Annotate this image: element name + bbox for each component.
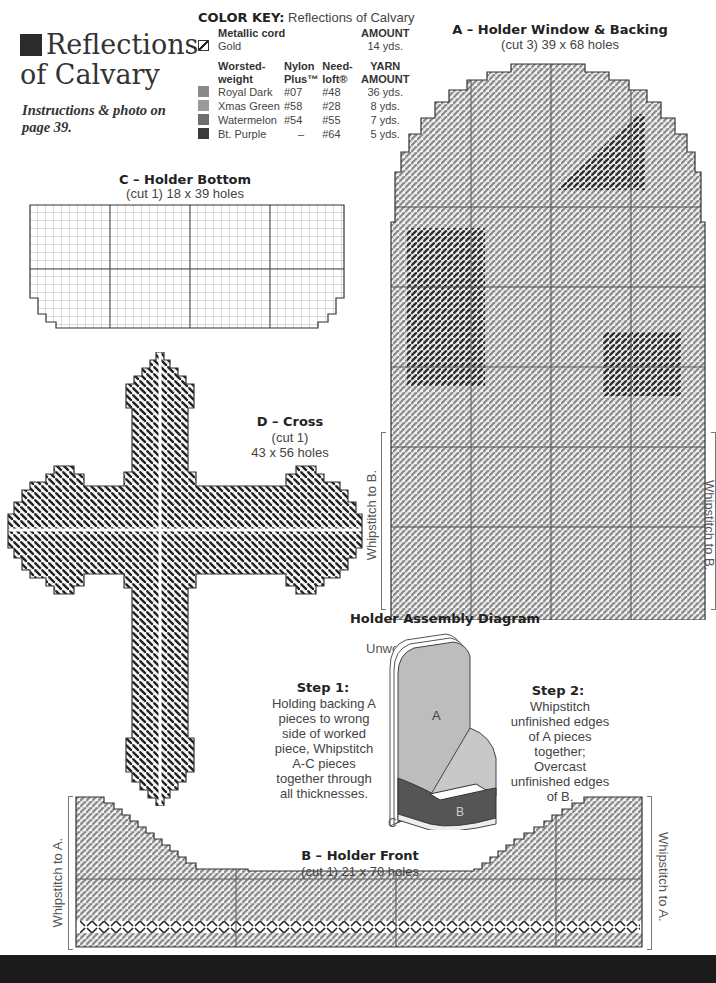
- piece-a-chart: [387, 62, 709, 620]
- piece-b-title: B – Holder Front: [270, 848, 450, 863]
- yarn-row: Xmas Green #58 #28 8 yds.: [198, 100, 414, 114]
- piece-a-title: A – Holder Window & Backing: [410, 22, 710, 37]
- header-needloft: Need-loft®: [322, 60, 360, 86]
- piece-b-subtitle: (cut 1) 21 x 70 holes: [270, 864, 450, 879]
- yarn-row: Watermelon #54 #55 7 yds.: [198, 114, 414, 128]
- header-nylon: Nylon Plus™: [284, 60, 322, 86]
- yarn-name: Royal Dark: [218, 86, 284, 100]
- whipstitch-to-a-right: Whipstitch to A.: [656, 832, 671, 922]
- step2-text: Whipstitch unfinished edges of A pieces …: [508, 699, 612, 804]
- yarn-nylon: #58: [284, 100, 322, 114]
- svg-text:A: A: [432, 708, 441, 723]
- instructions-reference: Instructions & photo on page 39.: [22, 102, 182, 136]
- bracket-b-left: [68, 796, 73, 950]
- color-key-label: COLOR KEY:: [198, 10, 284, 25]
- swatch-watermelon: [198, 114, 209, 125]
- title-square-icon: [20, 34, 42, 56]
- yarn-name: Xmas Green: [218, 100, 284, 114]
- piece-a-subtitle: (cut 3) 39 x 68 holes: [410, 37, 710, 52]
- yarn-needloft: #48: [322, 86, 360, 100]
- yarn-row: Royal Dark #07 #48 36 yds.: [198, 86, 414, 100]
- yarn-row: Bt. Purple – #64 5 yds.: [198, 128, 414, 142]
- bracket-left: [381, 432, 386, 610]
- whipstitch-to-a-left: Whipstitch to A.: [50, 838, 65, 928]
- piece-c-chart: [29, 204, 345, 330]
- piece-c-subtitle: (cut 1) 18 x 39 holes: [30, 186, 340, 201]
- header-worsted: Worsted-weight: [218, 60, 284, 86]
- yarn-name: Watermelon: [218, 114, 284, 128]
- metallic-header: Metallic cord: [218, 27, 360, 40]
- yarn-needloft: #28: [322, 100, 360, 114]
- title-line-2: of Calvary: [20, 60, 198, 90]
- page-bottom-edge: [0, 955, 716, 983]
- yarn-needloft: #55: [322, 114, 360, 128]
- assembly-title: Holder Assembly Diagram: [330, 611, 560, 626]
- step1-title: Step 1:: [268, 680, 378, 695]
- yarn-nylon: #54: [284, 114, 322, 128]
- title-line-1: Reflections: [46, 29, 198, 60]
- yarn-nylon: #07: [284, 86, 322, 100]
- swatch-bt-purple: [198, 128, 209, 139]
- color-key-pattern-name: Reflections of Calvary: [288, 10, 414, 25]
- gold-name: Gold: [218, 40, 360, 54]
- yarn-nylon: –: [284, 128, 322, 142]
- metallic-amount-header: AMOUNT: [360, 27, 414, 40]
- whipstitch-to-b-right: Whipstitch to B.: [702, 480, 716, 570]
- whipstitch-to-b-left: Whipstitch to B.: [364, 470, 379, 560]
- step1-text: Holding backing A pieces to wrong side o…: [268, 696, 380, 801]
- color-key: COLOR KEY: Reflections of Calvary Metall…: [198, 10, 415, 142]
- slash-swatch-icon: [198, 40, 209, 51]
- piece-c-title: C – Holder Bottom: [30, 172, 340, 187]
- holder-window-chart: [387, 62, 709, 620]
- yarn-needloft: #64: [322, 128, 360, 142]
- step2-title: Step 2:: [508, 683, 608, 698]
- bracket-b-right: [647, 796, 652, 950]
- swatch-royal-dark: [198, 86, 209, 97]
- swatch-xmas-green: [198, 100, 209, 111]
- holder-bottom-chart: [29, 204, 345, 330]
- gold-amount: 14 yds.: [360, 40, 414, 54]
- yarn-name: Bt. Purple: [218, 128, 284, 142]
- pattern-title: Reflections of Calvary: [20, 30, 198, 90]
